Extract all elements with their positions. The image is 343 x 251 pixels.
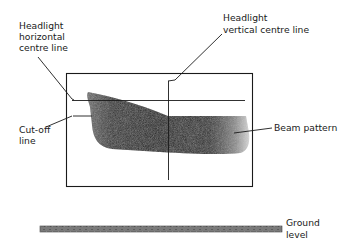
headlight-beam-diagram: Headlight horizontal centre line Headlig… — [0, 0, 343, 251]
label-horizontal-centre-line: Headlight horizontal centre line — [19, 20, 68, 53]
label-ground-level: Ground level — [286, 217, 323, 240]
label-beam-pattern: Beam pattern — [274, 122, 337, 133]
label-vertical-centre-line: Headlight vertical centre line — [223, 12, 309, 35]
label-cut-off-line: Cut-off line — [19, 124, 53, 146]
horizontal-centre-leader — [38, 57, 74, 100]
ground-level-bar — [40, 226, 282, 232]
